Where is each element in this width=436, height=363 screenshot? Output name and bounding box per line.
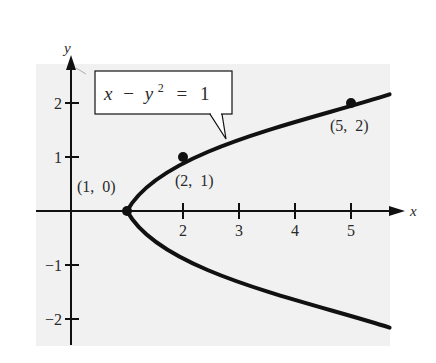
- point-label: (2, 1): [175, 172, 214, 190]
- y-tick-label: 1: [54, 149, 62, 166]
- x-tick-label: 2: [179, 222, 187, 239]
- parabola-chart: y 2 1 −1 −2 x 2 3 4 5 (1, 0) (2, 1) (5, …: [0, 0, 436, 363]
- data-point: [346, 98, 356, 108]
- x-tick-label: 5: [347, 222, 355, 239]
- data-point: [178, 152, 188, 162]
- data-point: [122, 206, 132, 216]
- x-axis-arrow-icon: [389, 206, 405, 216]
- y-tick-label: 2: [54, 95, 62, 112]
- x-axis-label: x: [409, 203, 417, 219]
- x-tick-label: 4: [291, 222, 299, 239]
- point-label: (1, 0): [77, 178, 116, 196]
- y-axis-arrow-icon: [66, 55, 76, 70]
- y-tick-label: −1: [45, 257, 62, 274]
- point-label: (5, 2): [330, 117, 369, 135]
- y-axis-label: y: [62, 40, 71, 56]
- x-tick-label: 3: [235, 222, 243, 239]
- y-tick-label: −2: [45, 311, 62, 328]
